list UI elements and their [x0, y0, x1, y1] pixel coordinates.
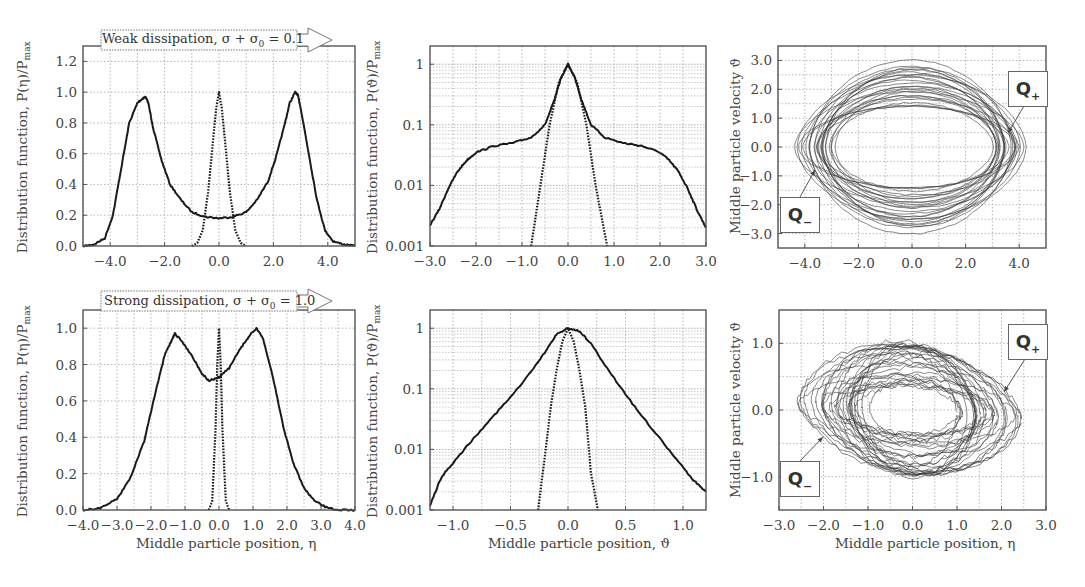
ylabel-p6: Middle particle velocity ϑ: [727, 310, 743, 510]
xtick-label: 2.0: [991, 517, 1012, 533]
xtick-label: −3.0: [414, 253, 447, 269]
ytick-label: 0.0: [56, 502, 77, 518]
ytick-label: 0.1: [403, 381, 424, 397]
xtick-label: 2.0: [955, 255, 976, 271]
ytick-label: 1.2: [56, 53, 77, 69]
frame-p4: [83, 310, 355, 510]
ytick-label: 1: [415, 320, 424, 336]
ytick-label: 0.4: [56, 176, 77, 192]
orbits-p3: [795, 60, 1026, 235]
xtick-label: 0.0: [557, 517, 578, 533]
ytick-label: 0.0: [56, 238, 77, 254]
xtick-label: 1.0: [946, 517, 967, 533]
ytick-label: 0.8: [56, 115, 77, 131]
annotation-strong: Strong dissipation, σ + σ0 = 1.0: [104, 293, 315, 311]
ytick-label: −3.0: [739, 226, 772, 242]
xtick-label: −2.0: [148, 253, 181, 269]
xtick-label: −4.0: [94, 253, 127, 269]
xtick-label: −4.0: [67, 517, 100, 533]
xtick-label: 4.0: [317, 253, 338, 269]
q-minus-arrow-top: [800, 170, 815, 197]
xtick-label: −2.0: [135, 517, 168, 533]
ylabel-p4: Distribution function, P(η)/Pmax: [14, 291, 33, 531]
ytick-label: 0.0: [752, 402, 773, 418]
ytick-label: 0.01: [394, 177, 424, 193]
ytick-label: −1.0: [739, 168, 772, 184]
grid-p1: [83, 46, 355, 246]
annotation-weak-text: Weak dissipation, σ + σ: [102, 31, 259, 46]
plot-p5: −1.0−0.50.00.51.00.0010.010.11: [385, 310, 706, 533]
xtick-label: 0.0: [557, 253, 578, 269]
xtick-label: 2.0: [649, 253, 670, 269]
orbits-p6: [797, 340, 1021, 479]
plot-p2: −3.0−2.0−1.00.01.02.03.00.0010.010.11: [385, 46, 716, 269]
xtick-label: −4.0: [788, 255, 821, 271]
ytick-label: 0.8: [56, 357, 77, 373]
xtick-label: 2.0: [276, 517, 297, 533]
xtick-label: 0.0: [902, 517, 923, 533]
xtick-label: 0.0: [208, 253, 229, 269]
xtick-label: −3.0: [101, 517, 134, 533]
ylabel-p3: Middle particle velocity ϑ: [727, 46, 743, 246]
ytick-label: 1.0: [56, 320, 77, 336]
ytick-label: 0.2: [56, 207, 77, 223]
ytick-label: 1.0: [752, 335, 773, 351]
xtick-label: 3.0: [1035, 517, 1056, 533]
xtick-label: 3.0: [695, 253, 716, 269]
xtick-label: 0.0: [208, 517, 229, 533]
xlabel-p6: Middle particle position, η: [835, 535, 1015, 551]
ylabel-p5: Distribution function, P(ϑ)/Pmax: [364, 291, 383, 531]
xtick-label: −3.0: [763, 517, 796, 533]
frame-p2: [430, 46, 706, 246]
frame-p1: [83, 46, 355, 246]
xtick-label: −1.0: [169, 517, 202, 533]
ylabel-p1: Distribution function, P(η)/Pmax: [14, 27, 33, 267]
ytick-label: 2.0: [751, 81, 772, 97]
xtick-label: −1.0: [852, 517, 885, 533]
grid-p4: [83, 310, 355, 510]
q-plus-arrow-bottom: [1004, 359, 1025, 392]
ytick-label: 0.4: [56, 429, 77, 445]
q-plus-label-top: Q+: [1008, 71, 1048, 107]
plot-p4: −4.0−3.0−2.0−1.00.01.02.03.04.00.00.20.4…: [56, 310, 366, 533]
xtick-label: 1.0: [603, 253, 624, 269]
ytick-label: 0.6: [56, 146, 77, 162]
xtick-label: 2.0: [263, 253, 284, 269]
series-dotted: [531, 64, 607, 246]
xtick-label: 3.0: [310, 517, 331, 533]
xtick-label: 4.0: [344, 517, 365, 533]
q-minus-label-top: Q−: [780, 197, 820, 233]
plot-p3: −4.0−2.00.02.04.0−3.0−2.0−1.00.01.02.03.…: [739, 46, 1046, 271]
annotation-weak: Weak dissipation, σ + σ0 = 0.1: [102, 31, 304, 49]
plot-p1: −4.0−2.00.02.04.00.00.20.40.60.81.01.2: [56, 46, 355, 269]
ytick-label: 3.0: [751, 52, 772, 68]
xtick-label: −2.0: [842, 255, 875, 271]
ytick-label: −2.0: [739, 197, 772, 213]
xlabel-p5: Middle particle position, ϑ: [488, 535, 670, 551]
grid-p2: [430, 46, 706, 246]
xtick-label: 0.5: [615, 517, 636, 533]
annotation-strong-text: Strong dissipation, σ + σ: [104, 293, 270, 308]
ytick-label: 1.0: [56, 84, 77, 100]
ytick-label: 0.2: [56, 466, 77, 482]
xtick-label: −0.5: [494, 517, 527, 533]
ytick-label: 1: [415, 56, 424, 72]
ytick-label: 1.0: [751, 110, 772, 126]
ytick-label: 0.6: [56, 393, 77, 409]
ytick-label: 0.001: [385, 238, 424, 254]
xlabel-p4: Middle particle position, η: [136, 535, 316, 551]
xtick-label: 1.0: [242, 517, 263, 533]
xtick-label: −1.0: [506, 253, 539, 269]
ytick-label: −1.0: [740, 469, 773, 485]
ytick-label: 0.1: [403, 117, 424, 133]
ylabel-p2: Distribution function, P(ϑ)/Pmax: [364, 27, 383, 267]
xtick-label: −2.0: [460, 253, 493, 269]
ytick-label: 0.01: [394, 441, 424, 457]
q-plus-label-bottom: Q+: [1008, 324, 1048, 360]
xtick-label: −1.0: [437, 517, 470, 533]
q-minus-arrow-bottom: [800, 437, 823, 461]
frame-p5: [430, 310, 706, 510]
xtick-label: −2.0: [807, 517, 840, 533]
xtick-label: 0.0: [901, 255, 922, 271]
grid-p5: [430, 310, 706, 510]
